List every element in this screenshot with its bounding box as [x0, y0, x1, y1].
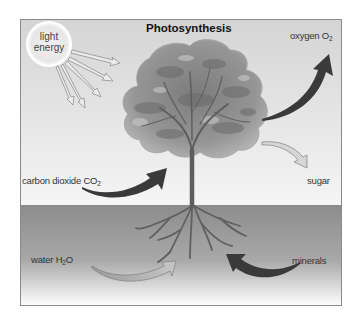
sugar-label-text: sugar [307, 175, 330, 186]
diagram-title: Photosynthesis [146, 22, 232, 34]
light-energy-label-line1: light [29, 31, 69, 42]
light-energy-label-line2: energy [29, 42, 69, 53]
water-label-suffix: O [66, 254, 73, 265]
water-label-text: water H [31, 254, 62, 265]
light-energy-label: light energy [29, 31, 69, 53]
oxygen-label-sub: 2 [329, 35, 332, 42]
oxygen-label-text: oxygen O [290, 30, 329, 41]
oxygen-label: oxygen O2 [290, 30, 333, 42]
carbon-dioxide-label-text: carbon dioxide CO [22, 175, 97, 186]
carbon-dioxide-label: carbon dioxide CO2 [22, 175, 101, 187]
sugar-label: sugar [307, 175, 330, 186]
minerals-label-text: minerals [292, 255, 326, 266]
carbon-dioxide-label-sub: 2 [97, 180, 100, 187]
minerals-label: minerals [292, 255, 326, 266]
water-label: water H2O [31, 254, 73, 266]
